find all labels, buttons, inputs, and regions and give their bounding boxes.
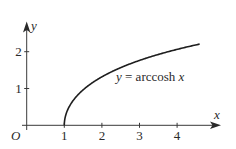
origin-label: O	[11, 128, 21, 143]
function-label-x: x	[178, 69, 185, 84]
y-tick-label: 2	[15, 44, 22, 59]
arccosh-curve	[64, 44, 199, 125]
arccosh-graph: 1234 12 x y O y = arccosh x	[0, 0, 236, 149]
x-tick-label: 4	[174, 128, 181, 143]
y-axis-label: y	[29, 18, 37, 33]
x-ticks: 1234	[61, 123, 181, 144]
x-tick-label: 3	[136, 128, 143, 143]
x-axis-label: x	[213, 107, 220, 122]
function-label-eq: = arccosh	[122, 69, 179, 84]
function-label: y = arccosh x	[114, 69, 185, 84]
x-tick-label: 1	[61, 128, 68, 143]
x-tick-label: 2	[99, 128, 106, 143]
y-tick-label: 1	[15, 81, 22, 96]
